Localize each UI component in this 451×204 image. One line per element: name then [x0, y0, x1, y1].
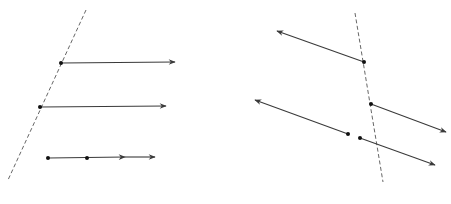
endpoint-dot	[358, 136, 362, 140]
ray	[360, 138, 435, 165]
endpoint-dot	[362, 60, 366, 64]
ray	[255, 100, 348, 134]
endpoint-dot	[85, 156, 89, 160]
dashed-line	[355, 13, 383, 182]
ray	[371, 104, 446, 132]
ray	[40, 106, 166, 107]
left-panel	[8, 10, 175, 180]
endpoint-dot	[38, 105, 42, 109]
diagram-canvas	[0, 0, 451, 204]
endpoint-dot	[346, 132, 350, 136]
ray	[61, 62, 175, 63]
dashed-line	[8, 10, 86, 180]
endpoint-dot	[46, 156, 50, 160]
endpoint-dot	[59, 61, 63, 65]
endpoint-dot	[369, 102, 373, 106]
ray	[277, 31, 364, 62]
right-panel	[255, 13, 446, 182]
